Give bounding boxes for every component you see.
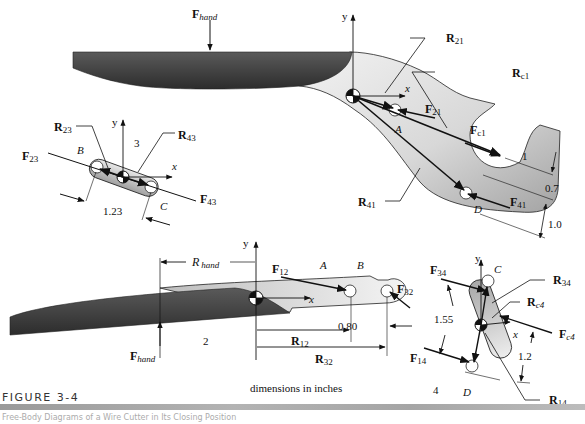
- dimension-0-7: 0.7: [545, 182, 559, 194]
- fc4-arrow: [500, 316, 552, 333]
- f-hand-label: Fhand: [192, 7, 218, 22]
- point-c-label: C: [494, 263, 502, 275]
- y-axis-label: y: [342, 10, 348, 22]
- figure-divider-bar: [0, 404, 585, 410]
- rc4-label: Rc4: [527, 295, 545, 310]
- pin-hole-c: [482, 275, 494, 287]
- x-axis-label: x: [171, 160, 177, 172]
- pin-hole-c: [145, 181, 157, 193]
- point-b-label: B: [357, 259, 364, 271]
- dimension-1-0: 1.0: [548, 218, 562, 230]
- f43-label: F43: [200, 192, 217, 207]
- fc1-label: Fc1: [470, 123, 486, 138]
- point-c-label: C: [160, 200, 168, 212]
- free-body-diagram: Fhand y x R21 Rc1 F21 Fc1 R41 F41 A D 1 …: [0, 0, 585, 424]
- link-number-3: 3: [134, 137, 140, 149]
- link-2: Rhand Fhand F12 F32 R12 R32 y x A B 2 0.…: [10, 237, 413, 367]
- dimension-1-2: 1.2: [518, 350, 532, 362]
- r41-label: R41: [358, 195, 376, 210]
- pin-hole-a: [344, 285, 356, 297]
- link-2-blade: [10, 288, 290, 335]
- link-number-4: 4: [433, 384, 439, 396]
- r12-label: R12: [291, 334, 309, 349]
- link-number-1: 1: [522, 150, 528, 162]
- fc4-label: Fc4: [559, 327, 575, 342]
- f14-label: F14: [410, 351, 427, 366]
- r43-label: R43: [178, 128, 196, 143]
- f23-label: F23: [22, 149, 39, 164]
- x-axis-label: x: [512, 328, 518, 340]
- point-b-label: B: [77, 144, 84, 156]
- point-a-label: A: [319, 259, 327, 271]
- r21-label: R21: [446, 31, 464, 46]
- link-1: Fhand y x R21 Rc1 F21 Fc1 R41 F41 A D 1 …: [73, 7, 562, 238]
- r14-vector: [474, 325, 481, 362]
- figure-title: FIGURE 3-4: [2, 391, 79, 404]
- f-hand-label: Fhand: [130, 349, 156, 364]
- point-d-label: D: [462, 386, 471, 398]
- rc1-label: Rc1: [512, 66, 529, 81]
- y-axis-label: y: [243, 237, 249, 249]
- pin-hole-b: [381, 285, 393, 297]
- f32-label: F32: [397, 282, 413, 297]
- y-axis-label: y: [112, 116, 118, 128]
- units-note: dimensions in inches: [250, 382, 342, 394]
- dimension-1-23: 1.23: [103, 205, 123, 217]
- f14-arrow: [424, 348, 469, 362]
- f34-label: F34: [430, 263, 447, 278]
- r32-label: R32: [315, 352, 333, 367]
- dimension-1-55: 1.55: [434, 313, 454, 325]
- x-axis-label: x: [404, 82, 410, 94]
- link-number-2: 2: [203, 335, 209, 347]
- link-1-blade: [73, 52, 352, 89]
- y-axis-label: y: [475, 252, 481, 264]
- point-d-label: D: [473, 203, 482, 215]
- r34-label: R34: [553, 273, 571, 288]
- pin-hole-b: [91, 161, 103, 173]
- r23-label: R23: [54, 120, 72, 135]
- r43-leader: [138, 133, 175, 172]
- point-a-label: A: [394, 123, 402, 135]
- r-hand-label: Rhand: [191, 255, 220, 270]
- dimension-0-80: 0.80: [338, 320, 358, 332]
- f12-label: F12: [272, 262, 288, 277]
- figure-caption: Free-Body Diagrams of a Wire Cutter in I…: [2, 413, 236, 422]
- link-4: F34 F14 Fc4 R34 Rc4 R14 y x C D 4 1.55 1…: [410, 252, 575, 408]
- x-axis-label: x: [308, 293, 314, 305]
- link-3: R23 R43 F23 F43 y x B C 3 1.23: [22, 116, 217, 225]
